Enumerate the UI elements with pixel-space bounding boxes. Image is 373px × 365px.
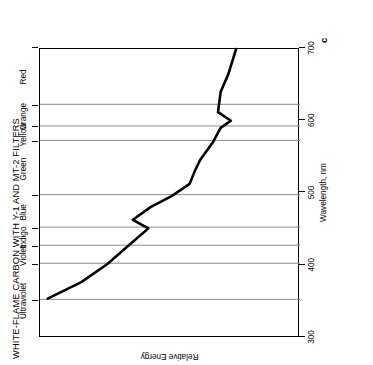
band-label-green: Green [19, 158, 28, 181]
x-axis-tick [299, 119, 305, 120]
x-axis-tick-label: 400 [307, 258, 316, 272]
color-band-tick [32, 195, 38, 196]
y-axis-title-text: Relative Energy [140, 351, 198, 360]
band-label-orange: Orange [19, 103, 28, 130]
color-band-tick [32, 228, 38, 229]
color-band-tick [32, 141, 38, 142]
x-axis-tick [299, 336, 305, 337]
x-axis-tick-label: 300 [307, 330, 316, 344]
spectral-curve [40, 49, 298, 336]
x-axis-tick [299, 47, 305, 48]
plot-area [39, 48, 299, 337]
x-axis-tick-label: 600 [307, 113, 316, 127]
band-label-red: Red [19, 69, 28, 84]
color-band-tick [32, 126, 38, 127]
x-axis: 300400500600700 Wavelength, nm [299, 48, 300, 337]
color-band-tick [32, 105, 38, 106]
figure-letter: c [318, 38, 329, 43]
plot-inner [40, 49, 298, 336]
rotated-chart-wrapper: WHITE-FLAME CARBON WITH Y-1 AND MT-2 FIL… [0, 18, 373, 365]
x-axis-tick [299, 264, 305, 265]
color-band-tick [32, 300, 38, 301]
color-band-tick [32, 47, 38, 48]
x-axis-tick-label: 500 [307, 186, 316, 200]
y-axis-title: Relative Energy [39, 349, 299, 363]
color-band-tick [32, 264, 38, 265]
band-label-blue: Blue [19, 204, 28, 220]
band-label-indigo: Indigo [19, 227, 28, 249]
color-band-tick [32, 246, 38, 247]
x-axis-tick-label: 700 [307, 41, 316, 55]
x-axis-title: Wavelength, nm [319, 163, 328, 222]
band-label-ultraviolet: Ultraviolet [19, 283, 28, 319]
x-axis-tick [299, 192, 305, 193]
